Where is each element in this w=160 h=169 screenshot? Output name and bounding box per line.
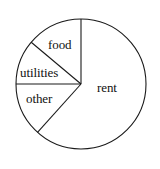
pie-chart-graphic	[0, 0, 160, 169]
pie-slice-label-other: other	[26, 92, 52, 105]
pie-slice-label-utilities: utilities	[20, 66, 58, 79]
pie-chart: food utilities other rent	[0, 0, 160, 169]
pie-slice-label-rent: rent	[97, 81, 117, 94]
pie-slice-label-food: food	[48, 38, 71, 51]
